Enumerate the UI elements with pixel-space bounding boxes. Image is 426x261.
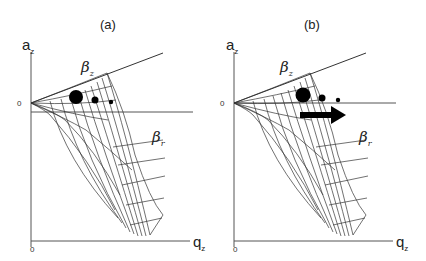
panel-title: (b) <box>304 17 320 32</box>
small-dot <box>109 100 113 104</box>
medium-dot <box>319 95 326 102</box>
origin-y-tick: 0 <box>220 99 224 108</box>
upper-region-label: βz <box>81 58 94 78</box>
beta-symbol: β <box>359 128 368 146</box>
panel-title: (a) <box>100 17 116 32</box>
beta-sub: z <box>90 69 94 78</box>
y-axis-label-sub: z <box>30 47 34 56</box>
x-axis-label: qz <box>193 233 205 253</box>
x-axis-label: qz <box>396 233 408 253</box>
mesh-grid <box>31 73 165 236</box>
lower-region-label: βr <box>359 128 372 148</box>
beta-symbol: β <box>152 128 161 146</box>
y-axis-label-sub: z <box>234 47 238 56</box>
panel-a: (a) az 0 0 qz βz βr <box>0 0 213 261</box>
beta-sub: r <box>368 139 372 148</box>
beta-symbol: β <box>81 58 90 76</box>
beta-sub: r <box>161 139 165 148</box>
beta-symbol: β <box>280 58 289 76</box>
y-axis-label: az <box>226 36 238 56</box>
large-dot <box>296 88 311 103</box>
origin-y-tick: 0 <box>17 99 21 108</box>
upper-region-label: βz <box>280 58 293 78</box>
beta-sub: z <box>289 69 293 78</box>
x-axis-label-sub: z <box>404 244 408 253</box>
y-axis-label: az <box>22 36 34 56</box>
right-arrow-icon <box>300 106 346 124</box>
origin-x-tick: 0 <box>30 245 34 254</box>
large-dot <box>69 90 83 104</box>
medium-dot <box>92 97 99 104</box>
x-axis-label-sub: z <box>201 244 205 253</box>
panel-b: (b) az 0 0 qz βz βr <box>213 0 426 261</box>
lower-region-label: βr <box>152 128 165 148</box>
origin-x-tick: 0 <box>233 245 237 254</box>
mesh-diagram-b <box>213 0 426 261</box>
small-dot <box>336 98 340 102</box>
